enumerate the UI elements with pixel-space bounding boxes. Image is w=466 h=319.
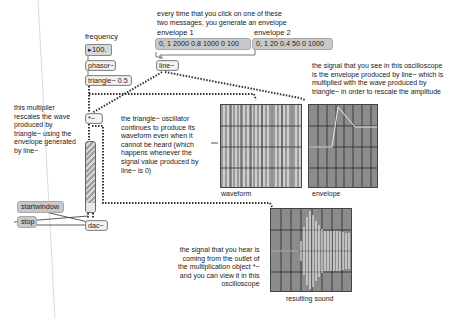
frequency-label: frequency bbox=[85, 33, 118, 42]
resulting-sound-trace bbox=[271, 209, 352, 292]
gain-slider[interactable] bbox=[85, 141, 96, 213]
envelope-2-message[interactable]: 0, 1 20 0.4 50 0 1000 bbox=[252, 38, 333, 50]
multiply-object[interactable]: *~ bbox=[85, 113, 103, 124]
envelope-1-message[interactable]: 0, 1 2000 0.8 1000 0 100 bbox=[155, 38, 251, 50]
triangle-note-comment: the triangle~ oscillator continues to pr… bbox=[121, 115, 198, 175]
triangle-object[interactable]: triangle~ 0.5 bbox=[85, 75, 132, 86]
startwindow-message[interactable]: startwindow bbox=[17, 201, 64, 213]
phasor-object[interactable]: phasor~ bbox=[85, 60, 116, 71]
waveform-oscilloscope bbox=[220, 104, 302, 188]
frequency-value: 100. bbox=[92, 45, 106, 54]
envelope-scope-comment: the signal that you see in this oscillos… bbox=[312, 62, 443, 96]
resulting-sound-oscilloscope bbox=[270, 208, 352, 292]
envelope-instructions-comment: every time that you click on one of thes… bbox=[157, 10, 287, 27]
line-object[interactable]: line~ bbox=[156, 60, 179, 71]
envelope-trace bbox=[309, 105, 378, 188]
envelope-2-label: envelope 2 bbox=[254, 29, 291, 38]
output-note-comment: the signal that you hear is coming from … bbox=[178, 246, 260, 289]
envelope-oscilloscope bbox=[308, 104, 378, 188]
stop-message[interactable]: stop bbox=[17, 216, 37, 228]
waveform-trace bbox=[221, 105, 302, 188]
dac-object[interactable]: dac~ bbox=[85, 220, 108, 231]
resulting-sound-label: resulting sound bbox=[286, 295, 333, 302]
waveform-label: waveform bbox=[221, 190, 251, 197]
gain-slider-empty bbox=[86, 203, 95, 212]
multiplier-comment: this multiplier rescales the wave produc… bbox=[14, 104, 76, 156]
frequency-number-box[interactable]: ▸100. bbox=[85, 44, 112, 56]
envelope-1-label: envelope 1 bbox=[157, 29, 194, 38]
envelope-label: envelope bbox=[312, 190, 340, 197]
